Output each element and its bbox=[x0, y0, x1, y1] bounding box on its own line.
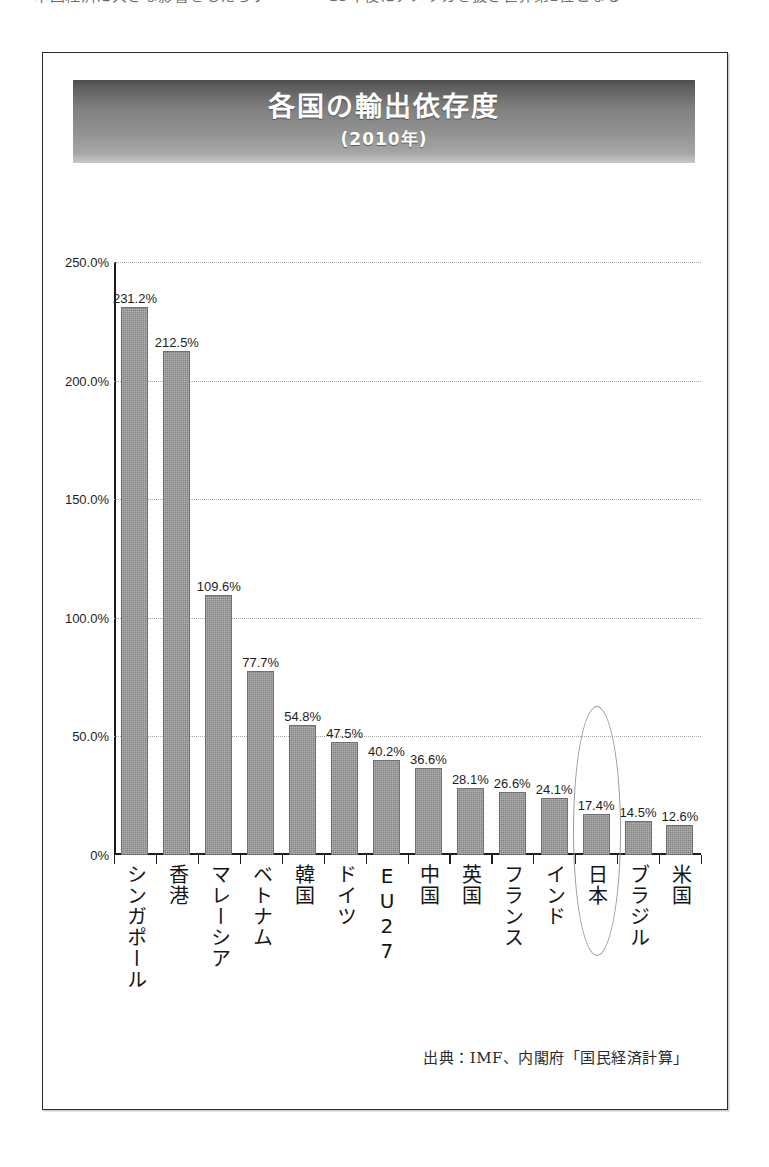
category-label-slot: シンガポール bbox=[114, 864, 156, 1044]
category-label-slot: フランス bbox=[491, 864, 533, 1044]
bar-slot: 77.7% bbox=[240, 262, 282, 855]
bar-value-label: 12.6% bbox=[662, 809, 699, 824]
y-axis-tick-label: 150.0% bbox=[47, 492, 109, 507]
bar[interactable]: 40.2% bbox=[373, 760, 400, 855]
bar-value-label: 14.5% bbox=[620, 805, 657, 820]
x-axis-tick bbox=[701, 855, 702, 864]
x-axis-category-label: フランス bbox=[502, 864, 523, 1044]
x-axis-tick bbox=[659, 855, 660, 864]
title-banner: 各国の輸出依存度 (2010年) bbox=[73, 80, 695, 163]
category-label-slot: 韓国 bbox=[282, 864, 324, 1044]
bar-value-label: 26.6% bbox=[494, 776, 531, 791]
bar-value-label: 212.5% bbox=[155, 335, 199, 350]
figure-frame: 各国の輸出依存度 (2010年) 0%50.0%100.0%150.0%200.… bbox=[42, 52, 728, 1110]
bar-value-label: 109.6% bbox=[197, 579, 241, 594]
bar-value-label: 54.8% bbox=[284, 709, 321, 724]
bar-slot: 17.4% bbox=[575, 262, 617, 855]
category-label-slot: ブラジル bbox=[617, 864, 659, 1044]
x-axis-tick bbox=[156, 855, 157, 864]
x-axis-tick bbox=[533, 855, 534, 864]
page-title: 各国の輸出依存度 bbox=[268, 93, 500, 122]
bar-slot: 54.8% bbox=[282, 262, 324, 855]
x-axis-tick bbox=[491, 855, 492, 864]
page-top-text-strip: 本国経済に大きな影響をもたらす 15年後にアメリカを抜き世界第1位となる bbox=[0, 0, 769, 11]
bar-slot: 26.6% bbox=[491, 262, 533, 855]
bar-value-label: 36.6% bbox=[410, 752, 447, 767]
x-axis-category-label: ドイツ bbox=[334, 864, 355, 1044]
bar[interactable]: 14.5% bbox=[625, 821, 652, 855]
bar-value-label: 40.2% bbox=[368, 744, 405, 759]
bar-value-label: 77.7% bbox=[242, 655, 279, 670]
x-axis-tick bbox=[366, 855, 367, 864]
x-axis-category-label: シンガポール bbox=[124, 864, 145, 1044]
bar[interactable]: 24.1% bbox=[541, 798, 568, 855]
bar-value-label: 47.5% bbox=[326, 726, 363, 741]
bar-slot: 14.5% bbox=[617, 262, 659, 855]
x-axis-category-label: マレーシア bbox=[208, 864, 229, 1044]
x-axis-tick bbox=[324, 855, 325, 864]
x-axis-category-label: 英国 bbox=[460, 864, 481, 1044]
bar-slot: 28.1% bbox=[449, 262, 491, 855]
bar[interactable]: 28.1% bbox=[457, 788, 484, 855]
bar[interactable]: 212.5% bbox=[163, 351, 190, 855]
category-label-slot: 中国 bbox=[407, 864, 449, 1044]
x-axis-category-label: ベトナム bbox=[250, 864, 271, 1044]
x-axis-tick bbox=[575, 855, 576, 864]
x-axis-tick bbox=[240, 855, 241, 864]
bar-value-label: 24.1% bbox=[536, 782, 573, 797]
bar[interactable]: 17.4% bbox=[583, 814, 610, 855]
y-axis-tick-label: 200.0% bbox=[47, 373, 109, 388]
bar[interactable]: 231.2% bbox=[121, 307, 148, 855]
bar-slot: 40.2% bbox=[366, 262, 408, 855]
bar-slot: 231.2% bbox=[114, 262, 156, 855]
bar-slot: 47.5% bbox=[324, 262, 366, 855]
bar-value-label: 17.4% bbox=[578, 798, 615, 813]
x-axis-tick bbox=[198, 855, 199, 864]
category-label-slot: マレーシア bbox=[198, 864, 240, 1044]
x-axis-tick bbox=[617, 855, 618, 864]
bar-chart: 0%50.0%100.0%150.0%200.0%250.0% 231.2%21… bbox=[43, 173, 729, 1053]
y-axis-tick-label: 100.0% bbox=[47, 610, 109, 625]
bar[interactable]: 26.6% bbox=[499, 792, 526, 855]
y-axis-tick-label: 250.0% bbox=[47, 255, 109, 270]
bar[interactable]: 47.5% bbox=[331, 742, 358, 855]
x-axis-category-label: 米国 bbox=[669, 864, 690, 1044]
plot-area: 231.2%212.5%109.6%77.7%54.8%47.5%40.2%36… bbox=[114, 262, 701, 855]
category-label-slot: インド bbox=[533, 864, 575, 1044]
x-axis-category-label: ブラジル bbox=[628, 864, 649, 1044]
x-axis-category-labels: シンガポール香港マレーシアベトナム韓国ドイツEU27中国英国フランスインド日本ブ… bbox=[114, 864, 701, 1044]
bar[interactable]: 77.7% bbox=[247, 671, 274, 855]
x-axis-tick bbox=[114, 855, 115, 864]
y-axis-tick-label: 50.0% bbox=[47, 729, 109, 744]
bar-slot: 212.5% bbox=[156, 262, 198, 855]
x-axis-category-label: インド bbox=[544, 864, 565, 1044]
category-label-slot: 日本 bbox=[575, 864, 617, 1044]
bar-slot: 36.6% bbox=[407, 262, 449, 855]
category-label-slot: 香港 bbox=[156, 864, 198, 1044]
bar-value-label: 231.2% bbox=[113, 291, 157, 306]
x-axis-category-label: 日本 bbox=[586, 864, 607, 1044]
category-label-slot: 英国 bbox=[449, 864, 491, 1044]
bar-value-label: 28.1% bbox=[452, 772, 489, 787]
bar-slot: 12.6% bbox=[659, 262, 701, 855]
x-axis-category-label: 中国 bbox=[418, 864, 439, 1044]
x-axis-tick bbox=[282, 855, 283, 864]
x-axis-ticks bbox=[114, 855, 701, 864]
y-axis-tick-label: 0% bbox=[47, 848, 109, 863]
bar[interactable]: 54.8% bbox=[289, 725, 316, 855]
category-label-slot: ドイツ bbox=[324, 864, 366, 1044]
x-axis-tick bbox=[449, 855, 450, 864]
bar[interactable]: 12.6% bbox=[666, 825, 693, 855]
bar[interactable]: 109.6% bbox=[205, 595, 232, 855]
bar-slot: 109.6% bbox=[198, 262, 240, 855]
y-axis-labels: 0%50.0%100.0%150.0%200.0%250.0% bbox=[43, 173, 109, 1053]
source-note: 出典：IMF、内閣府「国民経済計算」 bbox=[423, 1046, 689, 1067]
x-axis-category-label: 香港 bbox=[166, 864, 187, 1044]
x-axis-tick bbox=[408, 855, 409, 864]
bar[interactable]: 36.6% bbox=[415, 768, 442, 855]
x-axis-category-label: 韓国 bbox=[292, 864, 313, 1044]
page-subtitle: (2010年) bbox=[341, 125, 428, 150]
bar-slot: 24.1% bbox=[533, 262, 575, 855]
category-label-slot: ベトナム bbox=[240, 864, 282, 1044]
bar-series: 231.2%212.5%109.6%77.7%54.8%47.5%40.2%36… bbox=[114, 262, 701, 855]
